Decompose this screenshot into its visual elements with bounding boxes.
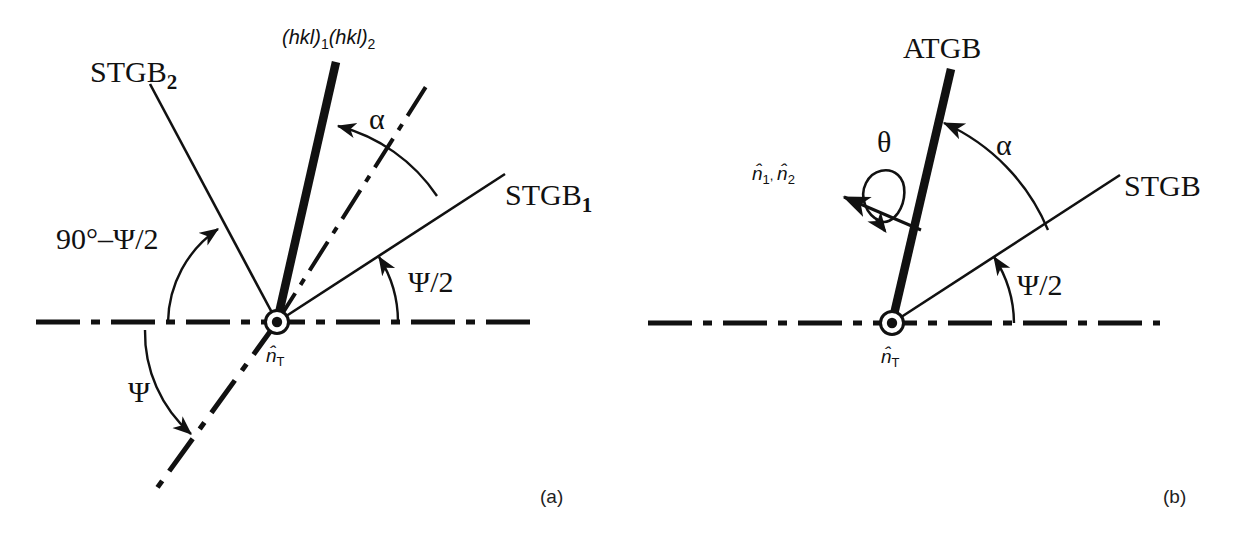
alpha-label-b: α: [996, 128, 1012, 161]
nhat1-glyph-b: n̂: [752, 163, 763, 184]
psi-half-arc-b: [994, 257, 1014, 323]
panel-b-tag: (b): [1163, 486, 1186, 507]
lower-dashdot-line-a: [152, 322, 277, 495]
alpha-label-a: α: [369, 102, 385, 135]
psi-half-arc-a: [379, 257, 398, 322]
atgb-label: ATGB: [903, 31, 981, 64]
tilt-axis-normal-label-a: n̂T: [266, 345, 285, 369]
boundary-plane-thick-line-a: [277, 62, 336, 322]
psi-half-label-b: Ψ/2: [1017, 268, 1062, 301]
nhat-glyph-a: n̂: [266, 345, 277, 366]
stgb-label-b: STGB: [1124, 169, 1201, 202]
psi-half-label-a: Ψ/2: [408, 265, 453, 298]
panel-a: STGB2 STGB1 (hkl)1(hkl)2 α Ψ/2 Ψ 90°–Ψ/2…: [36, 26, 592, 507]
tilt-axis-dot-a: [272, 317, 282, 327]
psi-arc-a: [145, 330, 191, 434]
diagram-svg: STGB2 STGB1 (hkl)1(hkl)2 α Ψ/2 Ψ 90°–Ψ/2…: [0, 0, 1250, 545]
tilt-axis-normal-label-b: n̂T: [881, 346, 900, 370]
dashdot-bisector-a: [277, 85, 427, 322]
stgb1-line: [277, 174, 505, 322]
theta-label-b: θ: [877, 125, 891, 158]
tilt-axis-dot-b: [887, 318, 897, 328]
panel-a-tag: (a): [540, 486, 563, 507]
psi-label-a: Ψ: [128, 375, 151, 408]
nhat2-glyph-b: n̂: [777, 163, 788, 184]
ninety-minus-psi-half-label-a: 90°–Ψ/2: [56, 222, 158, 255]
boundary-planes-label-a: (hkl)1(hkl)2: [282, 26, 376, 52]
alpha-arc-a: [338, 126, 437, 196]
boundary-normal-arrow-b: [844, 197, 921, 230]
stgb2-line: [150, 84, 277, 322]
nhat-glyph-b: n̂: [881, 346, 892, 367]
panel-b: ATGB STGB α θ Ψ/2 n̂1, n̂2 n̂T (b): [648, 31, 1201, 507]
stgb-line-b: [892, 175, 1120, 323]
figure-canvas: STGB2 STGB1 (hkl)1(hkl)2 α Ψ/2 Ψ 90°–Ψ/2…: [0, 0, 1250, 545]
atgb-thick-line-b: [892, 69, 951, 323]
ninety-minus-psi-half-arc-a: [168, 229, 218, 322]
boundary-normals-label-b: n̂1, n̂2: [752, 163, 795, 187]
stgb1-label: STGB1: [505, 178, 592, 217]
stgb2-label: STGB2: [90, 55, 177, 94]
